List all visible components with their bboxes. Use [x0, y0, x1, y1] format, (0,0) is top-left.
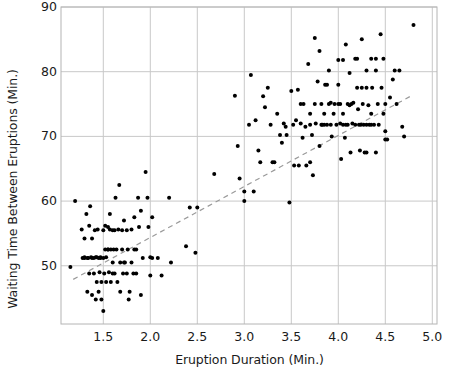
data-point — [249, 73, 253, 77]
data-point — [263, 105, 267, 109]
data-point — [412, 23, 416, 27]
data-point — [212, 172, 216, 176]
data-point — [87, 224, 91, 228]
data-point — [195, 206, 199, 210]
data-point — [160, 273, 164, 277]
data-point — [318, 144, 322, 148]
data-point — [252, 189, 256, 193]
data-point — [355, 86, 359, 90]
x-axis-tick-label: 4.0 — [318, 331, 358, 344]
data-point — [366, 103, 370, 107]
data-point — [101, 309, 105, 313]
x-axis-tick-label: 3.0 — [224, 331, 264, 344]
data-point — [349, 102, 353, 106]
data-point — [348, 71, 352, 75]
data-point — [113, 228, 117, 232]
data-point — [121, 272, 125, 276]
data-point — [156, 256, 160, 260]
data-point — [314, 121, 318, 125]
plot-background — [61, 7, 437, 324]
data-point — [102, 272, 106, 276]
data-point — [365, 123, 369, 127]
data-point — [349, 151, 353, 155]
data-point — [369, 112, 373, 116]
x-axis-tick-label: 2.0 — [130, 331, 170, 344]
data-point — [377, 123, 381, 127]
x-axis-tick-label: 4.5 — [365, 331, 405, 344]
data-point — [289, 89, 293, 93]
x-axis-tick-label: 2.5 — [177, 331, 217, 344]
data-point — [92, 272, 96, 276]
data-point — [325, 123, 329, 127]
data-point — [254, 118, 258, 122]
data-point — [139, 293, 143, 297]
data-point — [339, 157, 343, 161]
data-point — [319, 102, 323, 106]
data-point — [311, 173, 315, 177]
data-point — [287, 200, 291, 204]
data-point — [141, 256, 145, 260]
data-point — [379, 32, 383, 36]
data-point — [308, 123, 312, 127]
data-point — [292, 164, 296, 168]
data-point — [355, 57, 359, 61]
data-point — [98, 270, 102, 274]
data-point — [285, 133, 289, 137]
data-point — [383, 129, 387, 133]
data-point — [294, 118, 298, 122]
data-point — [344, 43, 348, 47]
data-point — [101, 228, 105, 232]
data-point — [369, 57, 373, 61]
data-point — [272, 160, 276, 164]
data-point — [117, 183, 121, 187]
data-point — [310, 133, 314, 137]
data-point — [381, 57, 385, 61]
data-point — [99, 297, 103, 301]
data-point — [87, 272, 91, 276]
data-point — [336, 58, 340, 62]
data-point — [236, 144, 240, 148]
data-point — [233, 94, 237, 98]
data-point — [365, 151, 369, 155]
data-point — [136, 196, 140, 200]
data-point — [120, 228, 124, 232]
data-point — [402, 134, 406, 138]
data-point — [144, 170, 148, 174]
data-point — [94, 297, 98, 301]
data-point — [126, 248, 130, 252]
x-axis-label: Eruption Duration (Min.) — [61, 352, 438, 367]
data-point — [115, 280, 119, 284]
data-point — [137, 225, 141, 229]
data-point — [322, 112, 326, 116]
data-point — [365, 86, 369, 90]
data-point — [85, 256, 89, 260]
data-point — [193, 251, 197, 255]
data-point — [395, 102, 399, 106]
data-point — [361, 102, 365, 106]
data-point — [146, 225, 150, 229]
data-point — [306, 62, 310, 66]
data-point — [132, 215, 136, 219]
data-point — [341, 123, 345, 127]
data-point — [299, 102, 303, 106]
data-point — [330, 134, 334, 138]
data-point — [303, 125, 307, 129]
data-point — [120, 248, 124, 252]
data-point — [299, 121, 303, 125]
data-point — [275, 112, 279, 116]
data-point — [111, 272, 115, 276]
data-point — [150, 215, 154, 219]
data-point — [341, 58, 345, 62]
data-point — [84, 212, 88, 216]
data-point — [98, 256, 102, 260]
data-point — [73, 199, 77, 203]
data-point — [385, 138, 389, 142]
data-point — [111, 261, 115, 265]
data-point — [167, 196, 171, 200]
data-point — [118, 261, 122, 265]
data-point — [125, 228, 129, 232]
data-point — [301, 136, 305, 140]
data-point — [150, 256, 154, 260]
data-point — [130, 261, 134, 265]
data-point — [316, 79, 320, 83]
